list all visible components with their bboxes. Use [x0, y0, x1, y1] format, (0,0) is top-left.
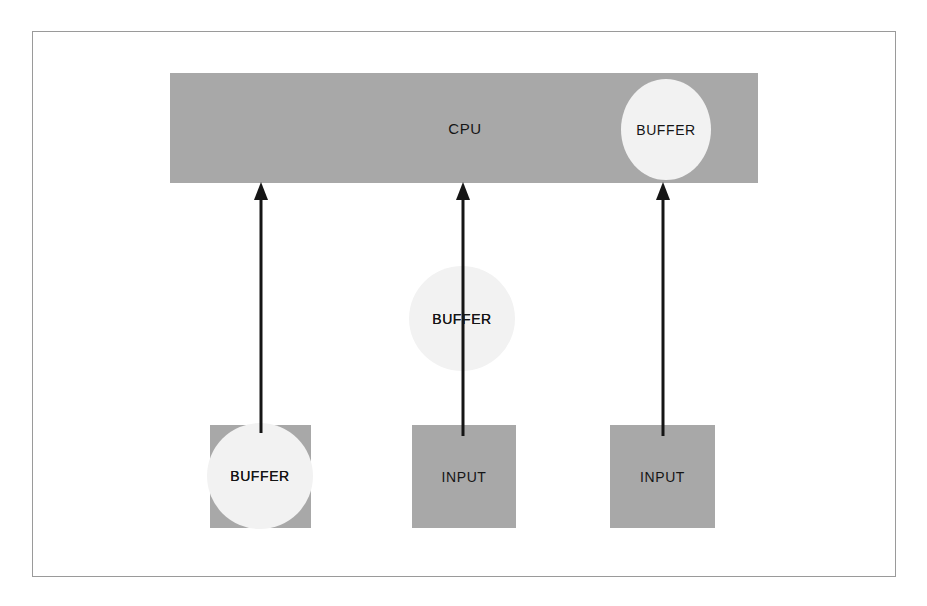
middle-buffer-circle: BUFFER [409, 266, 515, 371]
cpu-buffer-circle: BUFFER [621, 79, 711, 180]
left-buffer-circle: BUFFER [207, 423, 313, 529]
diagram-canvas: CPU BUFFER INPUT INPUT BUFFER BUFFER BUF… [0, 0, 927, 606]
right-input-box: INPUT [610, 425, 715, 528]
middle-input-box: INPUT [412, 425, 516, 528]
